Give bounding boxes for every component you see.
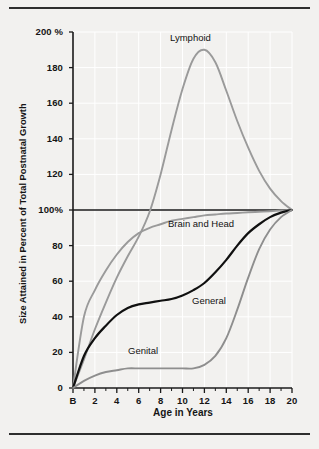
x-tick-label: 10 <box>173 395 193 406</box>
x-tick-label: 8 <box>151 395 171 406</box>
series-label-brain-and-head: Brain and Head <box>166 218 236 229</box>
y-tick-label: 0 <box>21 382 63 393</box>
x-axis-title: Age in Years <box>73 407 293 418</box>
x-tick-label: 6 <box>129 395 149 406</box>
x-tick-label: 2 <box>85 395 105 406</box>
series-label-genital: Genital <box>126 345 160 356</box>
series-label-general: General <box>190 295 228 306</box>
y-tick-label: 20 <box>21 346 63 357</box>
series-label-lymphoid: Lymphoid <box>168 32 213 43</box>
x-tick-label: 14 <box>216 395 236 406</box>
x-tick-label: 18 <box>260 395 280 406</box>
y-tick-label: 180 <box>21 62 63 73</box>
x-tick-label: 4 <box>107 395 127 406</box>
x-tick-label: 12 <box>194 395 214 406</box>
x-tick-label: 16 <box>238 395 258 406</box>
y-tick-label: 200 % <box>21 26 63 37</box>
x-tick-label: 20 <box>282 395 302 406</box>
growth-curves-figure: 020406080100%120140160180200 % B24681012… <box>0 0 319 449</box>
y-axis-title: Size Attained in Percent of Total Postna… <box>18 104 28 324</box>
x-tick-label: B <box>63 395 83 406</box>
